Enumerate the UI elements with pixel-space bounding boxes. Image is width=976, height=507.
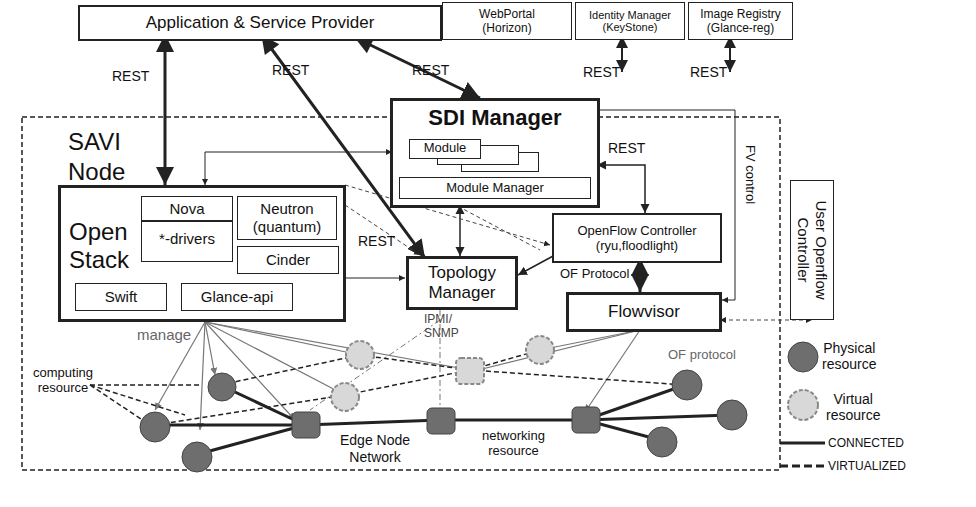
computing-resource-label: computingresource <box>33 365 93 395</box>
neutron-box: Neutron(quantum) <box>237 196 337 240</box>
legend-physical-label: Physicalresource <box>822 340 876 372</box>
of-protocol-lower-label: OF protocol <box>668 347 736 362</box>
registry-label: Image Registry <box>700 7 781 21</box>
legend-connected-label: CONNECTED <box>828 436 904 450</box>
sdi-manager-title: SDI Manager <box>393 105 597 131</box>
openstack-box: OpenStack Nova *-drivers Neutron(quantum… <box>58 185 346 322</box>
ipmi-snmp-label: IPMI/SNMP <box>424 312 459 340</box>
user-openflow-controller-box: User OpenflowController <box>790 180 834 320</box>
keystone-label: (KeyStone) <box>602 21 657 33</box>
swift-box: Swift <box>75 283 167 311</box>
physical-nodes <box>140 370 747 472</box>
rest-label-of-controller: REST <box>608 140 645 156</box>
drivers-box: *-drivers <box>141 220 233 262</box>
glance-api-box: Glance-api <box>181 283 293 311</box>
rest-label-registry: REST <box>690 64 727 80</box>
identity-label: Identity Manager <box>589 9 671 21</box>
rest-label-openstack: REST <box>358 233 395 249</box>
legend-virtual-icon <box>788 390 818 420</box>
openstack-title: OpenStack <box>69 218 129 274</box>
glance-reg-label: (Glance-reg) <box>707 21 774 35</box>
user-of-controller-label: User OpenflowController <box>794 200 830 299</box>
legend-virtualized-label: VIRTUALIZED <box>828 459 906 473</box>
identity-manager-box: Identity Manager(KeyStone) <box>575 2 685 40</box>
openflow-controller-box: OpenFlow Controller(ryu,floodlight) <box>552 213 722 263</box>
savi-node-title: SAVINode <box>68 127 125 187</box>
cinder-box: Cinder <box>237 246 339 274</box>
edge-node-network-label: Edge NodeNetwork <box>340 432 410 466</box>
asp-label: Application & Service Provider <box>146 13 375 33</box>
legend-physical-icon <box>788 342 818 372</box>
webportal-box: WebPortal(Horizon) <box>442 2 572 40</box>
horizon-label: (Horizon) <box>482 21 531 35</box>
nova-box: Nova <box>141 196 233 222</box>
rest-label-sdi: REST <box>412 62 449 78</box>
manage-label: manage <box>137 326 191 343</box>
rest-label-topology: REST <box>272 62 309 78</box>
topology-manager-box: TopologyManager <box>406 256 518 310</box>
image-registry-box: Image Registry(Glance-reg) <box>688 2 793 40</box>
app-service-provider-box: Application & Service Provider <box>78 5 442 41</box>
flowvisor-box: Flowvisor <box>566 292 722 332</box>
networking-resource-label: networkingresource <box>482 428 545 458</box>
sdi-manager-box: SDI Manager Module Module Manager <box>390 98 600 208</box>
legend-virtual-label: Virtualresource <box>826 391 880 423</box>
fv-control-label: FV control <box>743 145 758 204</box>
webportal-label: WebPortal <box>479 7 535 21</box>
of-protocol-label: OF Protocol <box>560 266 629 281</box>
module-manager-box: Module Manager <box>399 177 591 199</box>
module-box: Module <box>409 139 481 159</box>
rest-label-asp: REST <box>112 68 149 84</box>
rest-label-identity: REST <box>583 64 620 80</box>
